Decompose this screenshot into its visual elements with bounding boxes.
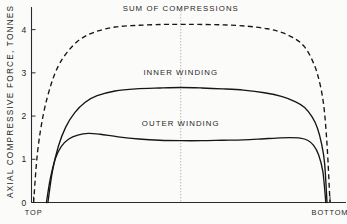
y-axis-label: AXIAL COMPRESSIVE FORCE, TONNES <box>6 5 15 198</box>
y-tick-label-0: 0 <box>22 198 27 208</box>
y-tick-label-3: 3 <box>22 68 27 78</box>
y-tick-label-1: 1 <box>22 154 27 164</box>
annotation-inner-winding: INNER WINDING <box>143 68 218 77</box>
axes <box>32 7 347 203</box>
series-curve-outer-winding <box>46 133 325 202</box>
chart-figure: AXIAL COMPRESSIVE FORCE, TONNES 01234 TO… <box>0 0 347 224</box>
series-curve-inner-winding <box>48 88 327 203</box>
x-axis-ticks: TOPBOTTOM <box>25 197 347 217</box>
y-tick-label-2: 2 <box>22 111 27 121</box>
axial-compressive-force-chart: AXIAL COMPRESSIVE FORCE, TONNES 01234 TO… <box>0 0 347 224</box>
data-curves <box>34 24 330 202</box>
annotation-outer-winding: OUTER WINDING <box>142 119 220 128</box>
y-axis-ticks: 01234 <box>22 25 36 208</box>
y-tick-label-4: 4 <box>22 25 27 35</box>
x-tick-label-bottom: BOTTOM <box>312 208 347 217</box>
series-curve-sum-of-compressions <box>34 24 330 202</box>
x-tick-label-top: TOP <box>25 208 43 217</box>
annotation-sum-of-compressions: SUM OF COMPRESSIONS <box>123 4 239 13</box>
